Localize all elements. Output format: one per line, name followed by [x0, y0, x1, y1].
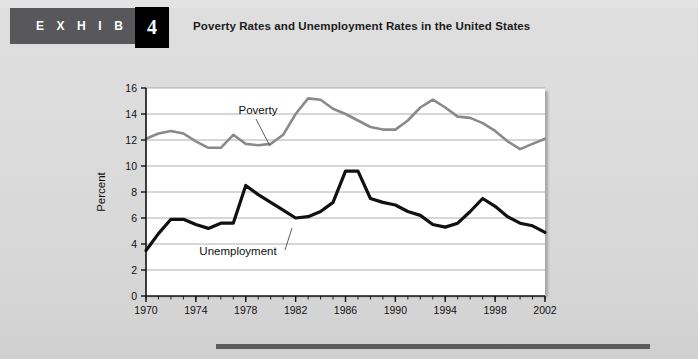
- y-tick-label: 6: [131, 212, 137, 224]
- annotation-leader-poverty: [256, 119, 270, 146]
- annotation-label-unemployment: Unemployment: [199, 245, 277, 257]
- y-tick-label: 4: [131, 238, 137, 250]
- y-tick-label: 12: [125, 134, 137, 146]
- series-annotations: PovertyUnemployment: [199, 104, 292, 257]
- data-series: [146, 98, 545, 250]
- y-tick-label: 8: [131, 186, 137, 198]
- y-tick-label: 16: [125, 82, 137, 94]
- bottom-rule: [216, 344, 650, 349]
- x-tick-label: 1970: [134, 304, 158, 316]
- annotation-leader-unemployment: [285, 228, 292, 250]
- x-tick-label: 2002: [533, 304, 557, 316]
- annotation-label-poverty: Poverty: [239, 104, 278, 116]
- x-tick-label: 1990: [384, 304, 408, 316]
- y-tick-label: 2: [131, 264, 137, 276]
- x-axis-major-ticks: [146, 296, 545, 302]
- chart-svg: 0246810121416 19701974197819821986199019…: [0, 0, 698, 359]
- x-tick-label: 1994: [434, 304, 458, 316]
- y-tick-label: 14: [125, 108, 137, 120]
- x-tick-label: 1986: [334, 304, 358, 316]
- x-axis-tick-labels: 197019741978198219861990199419982002: [134, 304, 557, 316]
- y-tick-label: 0: [131, 290, 137, 302]
- x-tick-label: 1982: [284, 304, 308, 316]
- series-line-unemployment: [146, 171, 545, 250]
- y-axis-label: Percent: [95, 171, 107, 211]
- series-line-poverty: [146, 98, 545, 149]
- x-tick-label: 1998: [483, 304, 507, 316]
- x-tick-label: 1974: [184, 304, 208, 316]
- y-tick-label: 10: [125, 160, 137, 172]
- y-axis-tick-labels: 0246810121416: [125, 82, 137, 302]
- exhibit-page: E X H I B I T 4 Poverty Rates and Unempl…: [0, 0, 698, 359]
- x-tick-label: 1978: [234, 304, 258, 316]
